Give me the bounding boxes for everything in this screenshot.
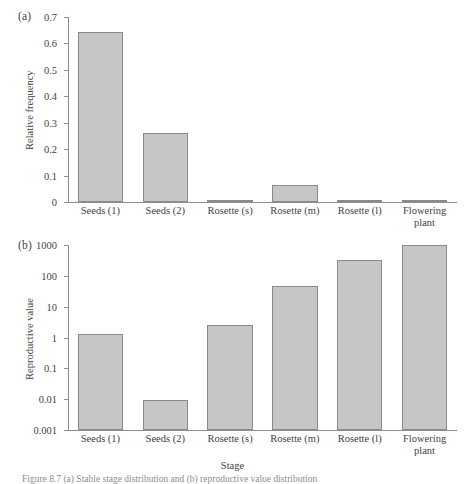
category-label-3: Rosette (m) bbox=[262, 433, 327, 457]
bar-slot bbox=[68, 17, 133, 202]
bar[interactable] bbox=[78, 334, 123, 430]
bar[interactable] bbox=[402, 245, 447, 430]
panel-a-plot-area: 00.10.20.30.40.50.60.7 bbox=[68, 18, 457, 203]
bar[interactable] bbox=[143, 400, 188, 430]
bar-slot bbox=[133, 17, 198, 202]
category-label-1: Seeds (2) bbox=[133, 433, 198, 457]
panel-b-plot-area: 0.0010.010.11101001000 bbox=[68, 246, 457, 431]
bar-slot bbox=[327, 245, 392, 430]
figure-container: (a) Relative frequency 00.10.20.30.40.50… bbox=[0, 0, 465, 484]
panel-b-category-labels: Seeds (1)Seeds (2)Rosette (s)Rosette (m)… bbox=[68, 433, 457, 457]
panel-b-x-axis-line bbox=[68, 430, 457, 431]
category-label-0: Seeds (1) bbox=[68, 205, 133, 229]
panel-a-category-labels: Seeds (1)Seeds (2)Rosette (s)Rosette (m)… bbox=[68, 205, 457, 229]
bar-slot bbox=[392, 17, 457, 202]
y-tick-mark: 0.001 bbox=[64, 430, 69, 431]
y-tick-label: 100 bbox=[41, 270, 57, 281]
y-tick-label: 0.001 bbox=[33, 425, 57, 436]
y-tick-label: 0.1 bbox=[44, 170, 57, 181]
panel-a-bars bbox=[68, 17, 457, 202]
bar[interactable] bbox=[143, 133, 188, 202]
y-tick-label: 0 bbox=[52, 197, 57, 208]
y-tick-label: 0.1 bbox=[44, 363, 57, 374]
panel-a-y-axis-title: Relative frequency bbox=[24, 50, 35, 170]
bar[interactable] bbox=[272, 185, 317, 202]
y-tick-label: 1000 bbox=[36, 240, 57, 251]
bar-slot bbox=[327, 17, 392, 202]
bar-slot bbox=[133, 245, 198, 430]
bar-slot bbox=[68, 245, 133, 430]
category-label-1: Seeds (2) bbox=[133, 205, 198, 229]
category-label-4: Rosette (l) bbox=[327, 205, 392, 229]
y-tick-label: 0.7 bbox=[44, 12, 57, 23]
bar-slot bbox=[392, 245, 457, 430]
panel-b-bars bbox=[68, 245, 457, 430]
bar[interactable] bbox=[207, 200, 252, 202]
y-tick-label: 0.6 bbox=[44, 38, 57, 49]
category-label-5: Flowering plant bbox=[392, 205, 457, 229]
bar[interactable] bbox=[78, 32, 123, 202]
y-tick-label: 0.3 bbox=[44, 117, 57, 128]
bar-slot bbox=[198, 17, 263, 202]
category-label-5: Flowering plant bbox=[392, 433, 457, 457]
y-tick-label: 0.2 bbox=[44, 144, 57, 155]
category-label-4: Rosette (l) bbox=[327, 433, 392, 457]
y-tick-label: 1 bbox=[52, 332, 57, 343]
y-tick-mark: 0 bbox=[64, 202, 69, 203]
bar[interactable] bbox=[272, 286, 317, 430]
bar-slot bbox=[198, 245, 263, 430]
category-label-0: Seeds (1) bbox=[68, 433, 133, 457]
panel-a-tag: (a) bbox=[18, 10, 31, 22]
panel-a-x-axis-line bbox=[68, 202, 457, 203]
y-tick-label: 10 bbox=[47, 301, 58, 312]
bar-slot bbox=[262, 245, 327, 430]
bar-slot bbox=[262, 17, 327, 202]
bar[interactable] bbox=[337, 260, 382, 430]
y-tick-label: 0.01 bbox=[39, 394, 57, 405]
y-tick-label: 0.5 bbox=[44, 64, 57, 75]
panel-b-x-axis-title: Stage bbox=[0, 460, 465, 471]
panel-b-tag: (b) bbox=[18, 239, 32, 251]
figure-caption: Figure 8.7 (a) Stable stage distribution… bbox=[22, 474, 447, 484]
category-label-2: Rosette (s) bbox=[198, 433, 263, 457]
panel-b-y-axis-title: Reproductive value bbox=[24, 274, 35, 404]
bar[interactable] bbox=[337, 200, 382, 202]
category-label-2: Rosette (s) bbox=[198, 205, 263, 229]
panel-a: (a) Relative frequency 00.10.20.30.40.50… bbox=[0, 0, 465, 236]
panel-b: (b) Reproductive value 0.0010.010.111010… bbox=[0, 236, 465, 462]
bar[interactable] bbox=[207, 325, 252, 430]
category-label-3: Rosette (m) bbox=[262, 205, 327, 229]
y-tick-label: 0.4 bbox=[44, 91, 57, 102]
bar[interactable] bbox=[402, 200, 447, 202]
